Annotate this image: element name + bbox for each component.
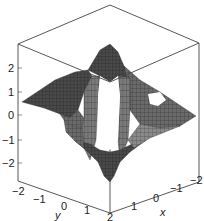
y-tick-0: 0 bbox=[61, 200, 67, 212]
y-tick-neg1: −1 bbox=[33, 193, 46, 205]
surface-right-lower bbox=[128, 124, 180, 148]
z-tick-0: 0 bbox=[8, 109, 14, 121]
x-tick-1: 1 bbox=[131, 200, 137, 212]
surface-left-flap bbox=[22, 70, 92, 118]
x-tick-0: 0 bbox=[153, 192, 159, 204]
z-tick-neg2: −2 bbox=[2, 157, 15, 169]
surface-plot-3d: 2 1 0 −1 −2 −2 −1 0 1 2 y 1 0 −1 −2 x bbox=[0, 0, 204, 221]
z-tick-neg1: −1 bbox=[2, 134, 15, 146]
x-tick-neg1: −1 bbox=[170, 182, 183, 194]
x-axis-title: x bbox=[159, 206, 166, 218]
surface bbox=[22, 44, 196, 182]
y-tick-1: 1 bbox=[84, 204, 90, 216]
y-tick-neg2: −2 bbox=[12, 185, 25, 197]
z-tick-2: 2 bbox=[8, 62, 14, 74]
x-tick-neg2: −2 bbox=[190, 174, 203, 186]
y-tick-2: 2 bbox=[107, 211, 113, 221]
z-tick-1: 1 bbox=[8, 86, 14, 98]
z-axis bbox=[18, 68, 22, 163]
